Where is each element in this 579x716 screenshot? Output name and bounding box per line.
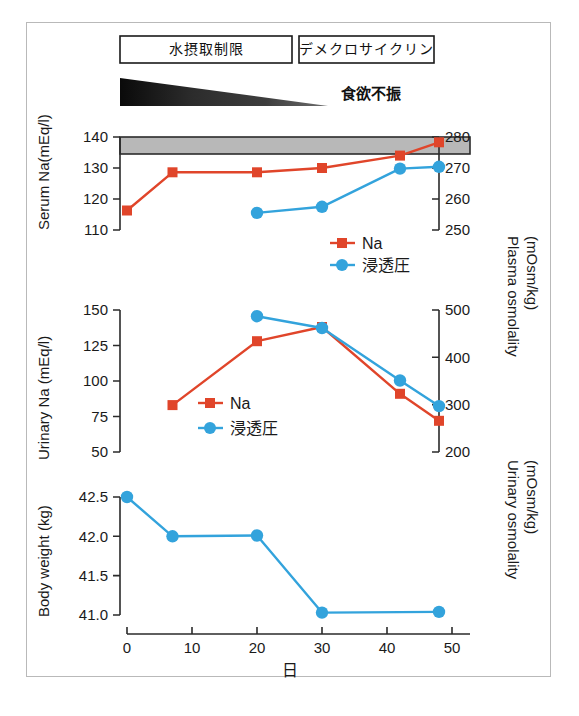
serum-y2tick-250: 250 (445, 221, 470, 238)
x-tick-20: 20 (249, 639, 266, 656)
urinary-y2tick-200: 200 (445, 443, 470, 460)
treatment-box-water-restriction-label: 水摂取制限 (169, 41, 244, 57)
serum-y-axis-title: Serum Na(mEq/l) (35, 114, 52, 230)
serum-y2-axis-title-main: Plasma osmolality (505, 236, 522, 357)
panel-urinary-na: 150 125 100 75 50 500 400 300 200 Urinar… (35, 301, 541, 580)
symptom-label: 食欲不振 (341, 85, 401, 102)
serum-y2tick-270: 270 (445, 159, 470, 176)
x-tick-0: 0 (123, 639, 131, 656)
urinary-y-axis-title: Urinary Na (mEq/l) (35, 336, 52, 460)
x-tick-50: 50 (444, 639, 461, 656)
weight-ytick-42-5: 42.5 (79, 488, 108, 505)
urinary-y2-axis-title-unit: (mOsm/kg) (524, 460, 541, 534)
urinary-y2-axis-title-main: Urinary osmolality (505, 460, 522, 580)
weight-point (166, 530, 178, 542)
urinary-point (394, 374, 406, 386)
legend-na-marker (337, 238, 347, 248)
weight-ytick-41-0: 41.0 (79, 606, 108, 623)
weight-left-axis (113, 497, 120, 615)
symptom-gradient-triangle (120, 78, 328, 106)
serum-point (316, 201, 328, 213)
weight-point (433, 606, 445, 618)
urinary-ytick-150: 150 (83, 301, 108, 318)
weight-ytick-42-0: 42.0 (79, 528, 108, 545)
serum-normal-range-band (120, 137, 470, 154)
weight-line-Body weight (127, 497, 439, 613)
serum-legend-na-label: Na (362, 235, 383, 252)
urinary-right-axis (432, 310, 439, 452)
serum-ytick-110: 110 (84, 221, 108, 238)
serum-point (252, 167, 262, 177)
serum-left-axis (113, 137, 120, 230)
serum-point (251, 207, 263, 219)
serum-ytick-120: 120 (83, 190, 108, 207)
chart-canvas: 水摂取制限 デメクロサイクリン 食欲不振 140 130 120 110 280… (0, 0, 579, 716)
urinary-series-1 (168, 322, 445, 426)
urinary-y2tick-400: 400 (445, 349, 470, 366)
urinary-legend-osm-label: 浸透圧 (230, 420, 278, 437)
serum-point (122, 206, 132, 216)
panel-body-weight: 42.5 42.0 41.5 41.0 Body weight (kg) 0 1… (35, 488, 470, 679)
urinary-series-2 (251, 310, 445, 412)
serum-ytick-140: 140 (83, 128, 108, 145)
serum-point (395, 151, 405, 161)
urinary-ytick-125: 125 (83, 337, 108, 354)
urinary-ytick-100: 100 (83, 372, 108, 389)
serum-point (433, 161, 445, 173)
x-tick-30: 30 (314, 639, 331, 656)
x-axis-line (127, 627, 470, 634)
serum-point (317, 163, 327, 173)
x-tick-40: 40 (379, 639, 396, 656)
urinary-point (434, 416, 444, 426)
treatment-box-demeclocycline: デメクロサイクリン (299, 36, 435, 63)
legend-na-marker (205, 398, 215, 408)
urinary-point (395, 389, 405, 399)
treatment-box-water-restriction: 水摂取制限 (120, 36, 292, 63)
urinary-point (168, 400, 178, 410)
legend-osm-marker (204, 422, 216, 434)
urinary-point (316, 322, 328, 334)
serum-y2tick-260: 260 (445, 190, 470, 207)
weight-point (251, 529, 263, 541)
weight-ytick-41-5: 41.5 (79, 567, 108, 584)
weight-point (316, 606, 328, 618)
x-tick-10: 10 (184, 639, 201, 656)
urinary-point (251, 310, 263, 322)
serum-point (168, 167, 178, 177)
urinary-legend: Na 浸透圧 (198, 395, 278, 437)
serum-ytick-130: 130 (83, 159, 108, 176)
serum-y2-axis-title-unit: (mOsm/kg) (524, 236, 541, 310)
urinary-line-浸透圧 (257, 316, 439, 406)
legend-osm-marker (336, 259, 348, 271)
serum-line-浸透圧 (257, 167, 439, 213)
treatment-box-demeclocycline-label: デメクロサイクリン (299, 41, 434, 57)
urinary-y2tick-300: 300 (445, 396, 470, 413)
serum-y2tick-280: 280 (445, 128, 470, 145)
urinary-left-axis (113, 310, 120, 452)
serum-series-2 (251, 161, 445, 219)
urinary-point (433, 400, 445, 412)
figure-root: 水摂取制限 デメクロサイクリン 食欲不振 140 130 120 110 280… (0, 0, 579, 716)
serum-point (394, 162, 406, 174)
urinary-ytick-50: 50 (91, 443, 108, 460)
urinary-y2tick-500: 500 (445, 301, 470, 318)
x-axis-title: 日 (282, 662, 298, 679)
weight-series-group (121, 491, 445, 619)
weight-series-1 (121, 491, 445, 619)
urinary-legend-na-label: Na (230, 395, 251, 412)
serum-legend-osm-label: 浸透圧 (362, 257, 410, 274)
weight-point (121, 491, 133, 503)
urinary-point (252, 336, 262, 346)
serum-legend: Na 浸透圧 (330, 235, 410, 274)
serum-point (434, 137, 444, 147)
urinary-series-group (168, 310, 446, 426)
urinary-ytick-75: 75 (91, 408, 108, 425)
weight-y-axis-title: Body weight (kg) (35, 505, 52, 617)
